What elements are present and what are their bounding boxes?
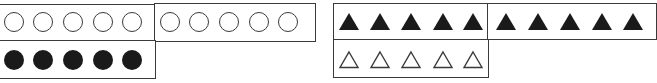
open-triangle-icon — [369, 50, 391, 69]
filled-triangle-icon — [591, 12, 613, 31]
filled-triangle-icon — [527, 12, 549, 31]
filled-circle-icon — [33, 50, 53, 70]
open-circle-icon — [4, 12, 24, 32]
filled-triangle-icon — [462, 12, 484, 31]
filled-circle-icon — [93, 50, 113, 70]
open-circle-icon — [249, 12, 269, 32]
open-triangle-icon — [400, 50, 422, 69]
filled-circle-icon — [63, 50, 83, 70]
filled-circle-icon — [4, 50, 24, 70]
filled-triangle-icon — [559, 12, 581, 31]
open-circle-icon — [160, 12, 180, 32]
filled-triangle-icon — [432, 12, 454, 31]
filled-triangle-icon — [369, 12, 391, 31]
open-triangle-icon — [462, 50, 484, 69]
open-triangle-icon — [338, 50, 360, 69]
open-circle-icon — [278, 12, 298, 32]
filled-triangle-icon — [400, 12, 422, 31]
open-circle-icon — [219, 12, 239, 32]
open-triangle-icon — [432, 50, 454, 69]
open-circle-icon — [93, 12, 113, 32]
open-circle-icon — [63, 12, 83, 32]
filled-triangle-icon — [622, 12, 644, 31]
open-circle-icon — [189, 12, 209, 32]
filled-circle-icon — [122, 50, 142, 70]
filled-triangle-icon — [338, 12, 360, 31]
filled-triangle-icon — [495, 12, 517, 31]
open-circle-icon — [122, 12, 142, 32]
open-circle-icon — [33, 12, 53, 32]
